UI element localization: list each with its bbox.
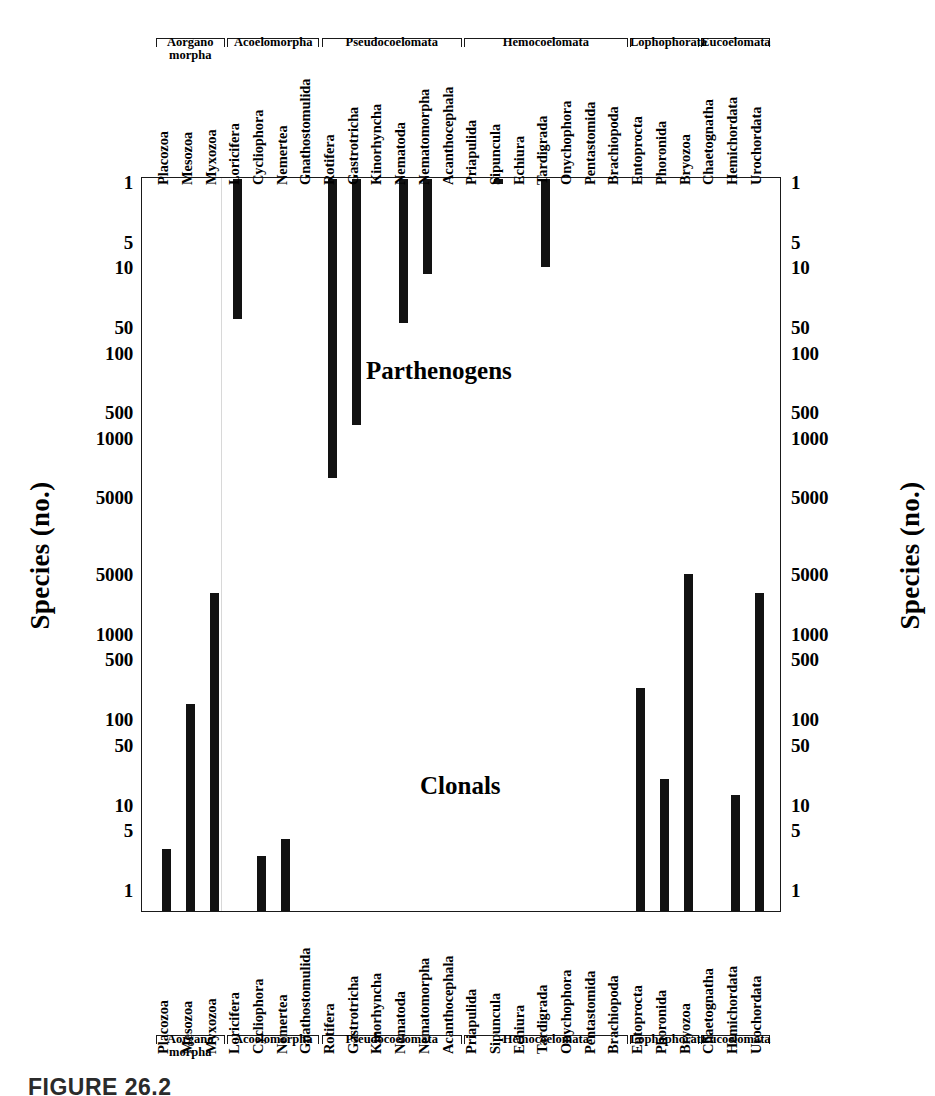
bar-clonal-urochordata	[755, 593, 764, 911]
taxon-label-top-pentastomida: Pentastomida	[582, 102, 599, 185]
bar-parthenogen-nematoda	[399, 179, 408, 323]
tick-lower-right-2: 500	[791, 650, 871, 669]
tick-upper-left-7: 5000	[55, 488, 133, 507]
bar-clonal-myxozoa	[210, 593, 219, 911]
tick-lower-right-0: 5000	[791, 564, 871, 583]
tick-lower-right-7: 1	[791, 881, 871, 900]
tick-lower-left-2: 500	[55, 650, 133, 669]
group-label-top-5: Eucoelomata	[701, 36, 770, 49]
group-label-bottom-2: Pseudocoelomata	[322, 1033, 462, 1046]
taxon-label-top-nemertea: Nemertea	[274, 125, 291, 185]
tick-lower-right-4: 50	[791, 735, 871, 754]
bar-parthenogen-gastrotricha	[352, 179, 361, 425]
group-label-bottom-5: Eucoelomata	[701, 1033, 770, 1046]
tick-upper-right-0: 1	[791, 173, 871, 192]
bar-parthenogen-loricifera	[233, 179, 242, 319]
group-label-top-2: Pseudocoelomata	[322, 36, 462, 49]
taxon-label-top-cycliophora: Cycliophora	[250, 110, 267, 185]
tick-lower-left-5: 10	[55, 795, 133, 814]
bar-clonal-entoprocta	[636, 688, 645, 911]
taxon-label-top-chaetognatha: Chaetognatha	[700, 99, 717, 185]
region-label-parthenogens: Parthenogens	[366, 357, 512, 385]
taxon-label-top-nematoda: Nematoda	[392, 122, 409, 185]
group-label-bottom-3: Hemocoelomata	[464, 1033, 628, 1046]
tick-lower-left-6: 5	[55, 821, 133, 840]
tick-upper-right-5: 500	[791, 403, 871, 422]
tick-lower-left-3: 100	[55, 710, 133, 729]
y-axis-title-right: Species (no.)	[895, 436, 926, 676]
tick-lower-right-1: 1000	[791, 624, 871, 643]
bar-clonal-hemichordata	[731, 795, 740, 911]
bar-clonal-mesozoa	[186, 704, 195, 911]
group-label-bottom-1: Acoelomorpha	[227, 1033, 319, 1046]
tick-upper-right-3: 50	[791, 317, 871, 336]
bar-parthenogen-nematomorpha	[423, 179, 432, 274]
taxon-label-top-myxozoa: Myxozoa	[203, 129, 220, 185]
group-label-top-3: Hemocoelomata	[464, 36, 628, 49]
group-label-top-4: Lophophorata	[630, 36, 699, 49]
taxon-label-bottom-rotifera: Rotifera	[321, 1003, 338, 1054]
taxon-label-top-nematomorpha: Nematomorpha	[416, 89, 433, 185]
tick-upper-right-7: 5000	[791, 488, 871, 507]
tick-lower-left-0: 5000	[55, 564, 133, 583]
column-separator	[221, 178, 222, 911]
taxon-label-top-placozoa: Placozoa	[155, 131, 172, 185]
taxon-label-top-acanthocephala: Acanthocephala	[440, 87, 457, 186]
y-axis-title-left: Species (no.)	[25, 436, 56, 676]
bar-clonal-bryozoa	[684, 574, 693, 911]
taxon-label-top-kinorhyncha: Kinorhyncha	[368, 104, 385, 185]
taxon-label-top-tardigrada: Tardigrada	[534, 116, 551, 185]
taxon-label-top-echiura: Echiura	[511, 136, 528, 185]
bar-clonal-cycliophora	[257, 856, 266, 911]
taxon-label-top-urochordata: Urochordata	[748, 107, 765, 185]
taxon-label-top-gastrotricha: Gastrotricha	[345, 107, 362, 185]
taxon-label-top-rotifera: Rotifera	[321, 134, 338, 185]
taxon-label-top-hemichordata: Hemichordata	[724, 97, 741, 185]
tick-upper-left-5: 500	[55, 403, 133, 422]
figure-container: Species (no.) Species (no.) Parthenogens…	[0, 0, 935, 1096]
tick-lower-right-6: 5	[791, 821, 871, 840]
taxon-label-top-phoronida: Phoronida	[653, 121, 670, 185]
group-label-top-0: Aorgano morpha	[156, 36, 225, 62]
group-label-top-1: Acoelomorpha	[227, 36, 319, 49]
bar-clonal-nemertea	[281, 839, 290, 911]
bar-parthenogen-tardigrada	[541, 179, 550, 267]
tick-upper-left-2: 10	[55, 258, 133, 277]
bar-parthenogen-rotifera	[328, 179, 337, 478]
tick-upper-right-2: 10	[791, 258, 871, 277]
bar-clonal-placozoa	[162, 849, 171, 911]
group-label-bottom-4: Lophophorata	[630, 1033, 699, 1046]
tick-upper-left-6: 1000	[55, 428, 133, 447]
figure-caption: FIGURE 26.2	[28, 1074, 172, 1096]
tick-upper-left-0: 1	[55, 173, 133, 192]
taxon-label-top-brachiopoda: Brachiopoda	[605, 106, 622, 185]
taxon-label-top-gnathostomulida: Gnathostomulida	[297, 79, 314, 185]
taxon-label-top-onychophora: Onychophora	[558, 101, 575, 185]
taxon-label-top-priapulida: Priapulida	[463, 120, 480, 185]
tick-lower-left-1: 1000	[55, 624, 133, 643]
taxon-label-top-loricifera: Loricifera	[226, 123, 243, 185]
tick-lower-left-4: 50	[55, 735, 133, 754]
taxon-label-top-mesozoa: Mesozoa	[179, 132, 196, 185]
tick-upper-right-1: 5	[791, 232, 871, 251]
tick-lower-left-7: 1	[55, 881, 133, 900]
taxon-label-top-sipuncula: Sipuncula	[487, 124, 504, 185]
tick-upper-left-4: 100	[55, 343, 133, 362]
tick-upper-right-4: 100	[791, 343, 871, 362]
taxon-label-top-entoprocta: Entoprocta	[629, 116, 646, 185]
taxon-label-bottom-bryozoa: Bryozoa	[677, 1003, 694, 1054]
tick-lower-right-5: 10	[791, 795, 871, 814]
group-label-bottom-0: Aorgano morpha	[156, 1033, 225, 1059]
bar-clonal-phoronida	[660, 779, 669, 911]
tick-upper-left-3: 50	[55, 317, 133, 336]
tick-lower-right-3: 100	[791, 710, 871, 729]
tick-upper-left-1: 5	[55, 232, 133, 251]
region-label-clonals: Clonals	[420, 772, 501, 800]
taxon-label-bottom-echiura: Echiura	[511, 1005, 528, 1054]
tick-upper-right-6: 1000	[791, 428, 871, 447]
taxon-label-top-bryozoa: Bryozoa	[677, 134, 694, 185]
